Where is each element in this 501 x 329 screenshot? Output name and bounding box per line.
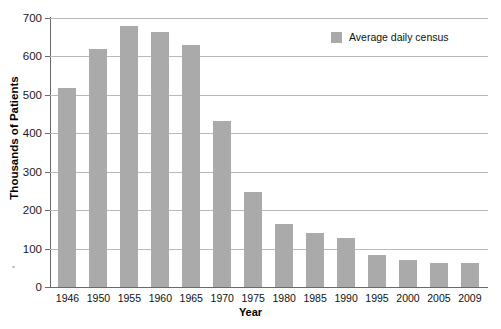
x-tick-label-1960: 1960	[149, 292, 172, 304]
bar-1960	[151, 32, 169, 287]
bar-1970	[213, 121, 231, 287]
legend-swatch-average-daily-census	[331, 32, 342, 43]
bar-1995	[368, 255, 386, 287]
y-tick-mark-200	[45, 210, 50, 211]
y-tick-label-300: 300	[23, 166, 42, 178]
x-axis-line	[50, 287, 488, 288]
bar-2000	[399, 260, 417, 287]
x-tick-label-1970: 1970	[211, 292, 234, 304]
plot-area	[50, 18, 488, 287]
y-tick-mark-300	[45, 172, 50, 173]
x-tick-label-1980: 1980	[272, 292, 295, 304]
y-tick-label-100: 100	[23, 243, 42, 255]
x-tick-label-1950: 1950	[87, 292, 110, 304]
legend: Average daily census	[331, 31, 449, 43]
y-tick-mark-0	[45, 287, 50, 288]
y-tick-mark-700	[45, 18, 50, 19]
y-tick-label-400: 400	[23, 127, 42, 139]
x-tick-label-1965: 1965	[180, 292, 203, 304]
bar-1975	[244, 192, 262, 287]
bar-2005	[430, 263, 448, 287]
bar-1985	[306, 233, 324, 287]
bar-1980	[275, 224, 293, 287]
bar-2009	[461, 263, 479, 287]
y-tick-mark-400	[45, 133, 50, 134]
bar-chart-figure: Thousands of Patients 010020030040050060…	[0, 0, 501, 329]
gridline-100	[50, 249, 488, 250]
bar-1946	[58, 88, 76, 287]
y-tick-label-500: 500	[23, 89, 42, 101]
x-tick-label-1990: 1990	[334, 292, 357, 304]
x-tick-label-2005: 2005	[427, 292, 450, 304]
y-tick-label-200: 200	[23, 204, 42, 216]
x-tick-label-1975: 1975	[242, 292, 265, 304]
gridline-700	[50, 18, 488, 19]
bar-1965	[182, 45, 200, 287]
legend-label-average-daily-census: Average daily census	[349, 31, 449, 43]
x-tick-label-2009: 2009	[458, 292, 481, 304]
y-tick-label-0: 0	[36, 281, 42, 293]
y-axis-tick-labels: 0100200300400500600700	[0, 0, 42, 329]
x-tick-label-1955: 1955	[118, 292, 141, 304]
x-tick-label-2000: 2000	[396, 292, 419, 304]
y-tick-mark-100	[45, 249, 50, 250]
x-tick-label-1995: 1995	[365, 292, 388, 304]
x-tick-label-1946: 1946	[56, 292, 79, 304]
gridline-300	[50, 172, 488, 173]
y-tick-mark-500	[45, 95, 50, 96]
scan-artifact-speck	[12, 266, 15, 268]
x-tick-label-1985: 1985	[303, 292, 326, 304]
bar-1955	[120, 26, 138, 287]
gridline-600	[50, 56, 488, 57]
y-tick-label-700: 700	[23, 12, 42, 24]
bar-1990	[337, 238, 355, 287]
gridline-200	[50, 210, 488, 211]
y-tick-mark-600	[45, 56, 50, 57]
gridline-400	[50, 133, 488, 134]
bar-1950	[89, 49, 107, 287]
gridline-500	[50, 95, 488, 96]
x-axis-title: Year	[0, 306, 501, 318]
y-tick-label-600: 600	[23, 50, 42, 62]
